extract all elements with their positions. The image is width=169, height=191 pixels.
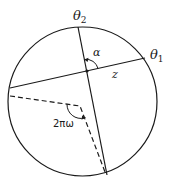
chord-z (10, 58, 145, 88)
z-label: z (111, 68, 118, 81)
theta1-label: θ1 (150, 47, 164, 64)
theta2-label: θ2 (73, 8, 87, 25)
circle-diagram: θ2 θ1 α z 2πω (0, 0, 169, 191)
alpha-label: α (93, 46, 101, 59)
angle-label: 2πω (53, 118, 74, 129)
dashed-path (10, 96, 105, 172)
intersection-point (85, 69, 88, 72)
